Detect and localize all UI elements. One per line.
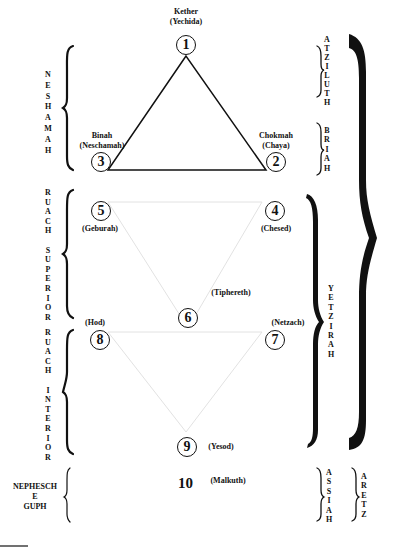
node-9[interactable]: 9 bbox=[177, 437, 197, 457]
node-6[interactable]: 6 bbox=[178, 308, 198, 328]
left-braces bbox=[63, 46, 73, 522]
node-10[interactable]: 10 bbox=[178, 475, 193, 492]
ruach-interior-label: R U A C H I N T E R I O R bbox=[43, 328, 53, 462]
node-4[interactable]: 4 bbox=[265, 201, 285, 221]
right-small-braces bbox=[317, 46, 359, 521]
outer-brace bbox=[349, 34, 377, 450]
node-3[interactable]: 3 bbox=[91, 152, 111, 172]
neschamah-label: (Neschamah) bbox=[76, 141, 128, 151]
nephesch-line-2: E bbox=[10, 492, 60, 502]
assiah-label: A S S I A H bbox=[324, 468, 334, 524]
node-1[interactable]: 1 bbox=[176, 35, 196, 55]
ruach-superior-label: R U A C H S U P E R I O R bbox=[43, 188, 53, 322]
nephesch-line-1: NEPHESCH bbox=[10, 482, 60, 492]
aretz-label: A R E T Z bbox=[359, 472, 369, 519]
yechida-label: (Yechida) bbox=[160, 17, 212, 27]
atziluth-label: A T Z I L U T H bbox=[322, 35, 332, 107]
nephesch-label: NEPHESCH E GUPH bbox=[10, 482, 60, 512]
hod-label: (Hod) bbox=[80, 318, 110, 328]
nephesch-line-3: GUPH bbox=[10, 502, 60, 512]
supernal-triangle bbox=[108, 56, 266, 170]
node-8[interactable]: 8 bbox=[90, 330, 110, 350]
netzach-label: (Netzach) bbox=[266, 318, 310, 328]
astral-triangle bbox=[108, 332, 262, 432]
kether-label: Kether bbox=[164, 7, 208, 17]
node-2[interactable]: 2 bbox=[266, 152, 286, 172]
binah-label: Binah bbox=[82, 131, 122, 141]
node-7[interactable]: 7 bbox=[265, 330, 285, 350]
diagram-lines bbox=[0, 0, 397, 551]
chaya-label: (Chaya) bbox=[254, 141, 298, 151]
chesed-label: (Chesed) bbox=[254, 224, 298, 234]
malkuth-label: (Malkuth) bbox=[208, 476, 248, 486]
geburah-label: (Geburah) bbox=[78, 224, 122, 234]
yesod-label: (Yesod) bbox=[204, 442, 238, 452]
tiphereth-label: (Tiphereth) bbox=[206, 288, 256, 298]
chokmah-label: Chokmah bbox=[254, 131, 298, 141]
briah-label: B R I A H bbox=[322, 126, 332, 173]
yetzirah-label: Y E T Z I R A H bbox=[326, 284, 336, 359]
neshamah-label: N E S H A M A H bbox=[43, 70, 53, 156]
node-5[interactable]: 5 bbox=[91, 201, 111, 221]
